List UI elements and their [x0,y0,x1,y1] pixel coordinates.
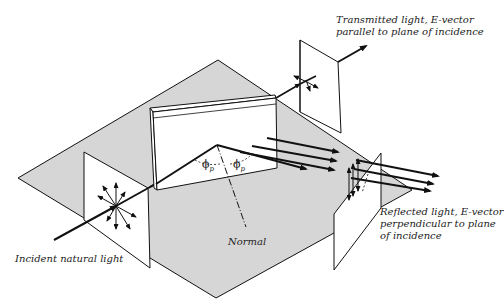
transmitted-beam-outer [338,46,366,62]
reflected-light-label: Reflected light, E-vector perpendicular … [380,206,504,242]
transmitted-beam-inner [276,84,300,98]
incident-light-label: Incident natural light [15,253,123,265]
angle-label-right: ϕp [233,159,245,175]
normal-label: Normal [228,236,266,248]
angle-label-left: ϕp [202,159,214,175]
transmitted-light-label: Transmitted light, E-vector parallel to … [336,14,484,38]
